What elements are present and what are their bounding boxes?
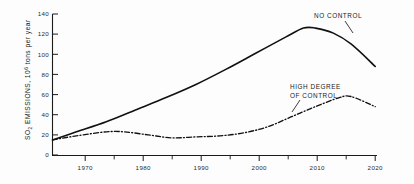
x-axis-tick-labels: 1970 1980 1990 2000 2010 2020 xyxy=(78,164,383,171)
y-axis-title: SO2 EMISSIONS, 106 tons per year xyxy=(24,19,33,140)
annotation-high-degree-of-control: HIGH DEGREE OF CONTROL xyxy=(290,83,341,112)
y-tick-label: 140 xyxy=(38,10,50,17)
y-title-lead: SO xyxy=(24,129,31,140)
y-tick-label: 20 xyxy=(41,131,49,138)
annotation-no-control-leader-line xyxy=(345,21,353,33)
y-tick-label: 60 xyxy=(41,91,49,98)
y-tick-label: 40 xyxy=(41,111,49,118)
y-tick-label: 0 xyxy=(45,151,49,158)
y-title-tail: tons per year xyxy=(24,19,32,67)
series-high-degree-of-control-line xyxy=(53,96,376,140)
x-axis-minor-ticks xyxy=(114,156,346,160)
y-tick-label: 120 xyxy=(38,30,50,37)
svg-text:SO2 EMISSIONS, 106 tons per y: SO2 EMISSIONS, 106 tons per year xyxy=(24,19,33,140)
x-tick-label: 2020 xyxy=(368,164,383,171)
y-axis-ticks xyxy=(53,14,59,155)
x-tick-label: 1980 xyxy=(136,164,151,171)
y-axis-tick-labels: 0 20 40 60 80 100 120 140 xyxy=(38,10,50,158)
x-tick-label: 2010 xyxy=(310,164,325,171)
x-tick-label: 2000 xyxy=(252,164,267,171)
x-tick-label: 1970 xyxy=(78,164,93,171)
y-tick-label: 80 xyxy=(41,71,49,78)
annotation-high-degree-leader-line xyxy=(292,100,300,112)
annotation-no-control-label: NO CONTROL xyxy=(314,12,362,19)
annotation-high-degree-line-1: HIGH DEGREE xyxy=(290,83,341,90)
annotation-high-degree-line-2: OF CONTROL xyxy=(290,92,337,99)
y-tick-label: 100 xyxy=(38,51,50,58)
x-tick-label: 1990 xyxy=(194,164,209,171)
so2-emissions-line-chart: SO2 EMISSIONS, 106 tons per year 0 20 40… xyxy=(0,0,414,184)
y-title-mid: EMISSIONS, 10 xyxy=(24,70,31,126)
figure-container: SO2 EMISSIONS, 106 tons per year 0 20 40… xyxy=(0,0,414,184)
